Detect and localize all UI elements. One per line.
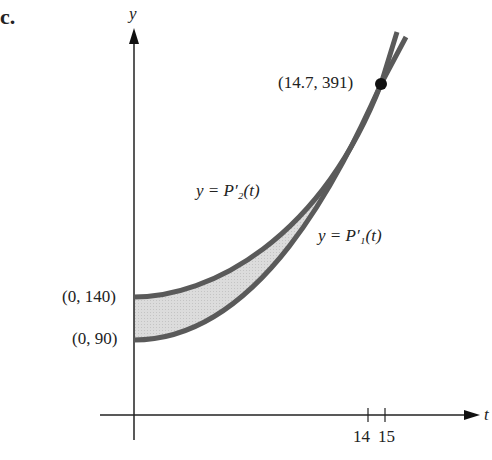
intersection-point [375,78,387,90]
y-axis-label: y [129,4,137,24]
part-label: c. [0,4,15,30]
curve-top-label: y = P′₂(t) [196,181,260,201]
shaded-region [134,84,381,340]
y-axis-arrow-icon [129,28,139,44]
x-tick-label-14: 14 [353,427,370,447]
intersection-label: (14.7, 391) [278,73,353,93]
y-intercept-top-label: (0, 140) [62,287,116,307]
x-axis-arrow-icon [464,410,480,420]
x-tick-label-15: 15 [378,427,395,447]
x-axis-label: t [484,405,489,425]
curve-bottom-label: y = P′₁(t) [318,226,382,246]
diagram-canvas [0,0,492,460]
y-intercept-bottom-label: (0, 90) [72,329,117,349]
